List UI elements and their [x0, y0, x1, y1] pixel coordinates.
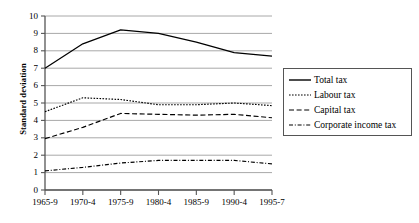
legend-label: Total tax — [314, 75, 347, 85]
legend-item-labour-tax[interactable]: Labour tax — [284, 87, 411, 102]
x-tick-label-0: 1965-9 — [32, 198, 58, 207]
x-tick-label-3: 1980-4 — [146, 198, 172, 207]
legend-line-swatch-dotted — [288, 90, 312, 100]
legend-line-swatch-solid — [288, 75, 312, 85]
legend-label: Capital tax — [314, 105, 355, 115]
x-tick-label-1: 1970-4 — [70, 198, 96, 207]
legend-item-capital-tax[interactable]: Capital tax — [284, 102, 411, 117]
x-tick-label-6: 1995-7 — [259, 198, 285, 207]
chart-legend: Total taxLabour taxCapital taxCorporate … — [283, 68, 412, 136]
legend-item-total-tax[interactable]: Total tax — [284, 72, 411, 87]
x-tick-label-5: 1990-4 — [221, 198, 247, 207]
legend-line-swatch-dashdot — [288, 120, 312, 130]
legend-line-swatch-dashed — [288, 105, 312, 115]
legend-label: Labour tax — [314, 90, 355, 100]
line-chart: Standard deviation 109876543210 1965-919… — [0, 0, 419, 223]
legend-item-corporate-income-tax[interactable]: Corporate income tax — [284, 117, 411, 132]
x-tick-label-2: 1975-9 — [108, 198, 134, 207]
legend-label: Corporate income tax — [314, 120, 396, 130]
x-tick-label-4: 1985-9 — [184, 198, 210, 207]
